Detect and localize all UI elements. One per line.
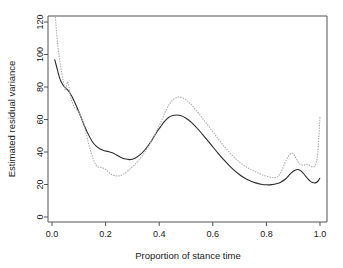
y-axis-title: Estimated residual variance bbox=[6, 61, 17, 178]
y-tick-label: 40 bbox=[35, 147, 45, 157]
axis-tick-labels: 0.00.20.40.60.81.0020406080100120 bbox=[35, 14, 326, 239]
y-tick-label: 80 bbox=[35, 82, 45, 92]
y-tick-label: 100 bbox=[35, 47, 45, 62]
chart-figure: 0.00.20.40.60.81.0020406080100120 Propor… bbox=[0, 0, 343, 268]
x-tick-label: 0.8 bbox=[260, 229, 273, 239]
x-tick-label: 0.0 bbox=[46, 229, 59, 239]
y-tick-label: 20 bbox=[35, 179, 45, 189]
x-tick-label: 0.4 bbox=[153, 229, 166, 239]
x-tick-label: 0.6 bbox=[207, 229, 220, 239]
residual-variance-plot: 0.00.20.40.60.81.0020406080100120 Propor… bbox=[0, 0, 343, 268]
y-tick-label: 60 bbox=[35, 114, 45, 124]
y-tick-label: 120 bbox=[35, 14, 45, 29]
series-line-solid-curve bbox=[55, 59, 320, 184]
x-tick-label: 0.2 bbox=[99, 229, 112, 239]
x-tick-label: 1.0 bbox=[314, 229, 327, 239]
x-axis-title: Proportion of stance time bbox=[135, 250, 241, 261]
axis-tick-marks bbox=[44, 22, 320, 226]
data-series-group bbox=[55, 9, 320, 185]
series-line-dotted-curve bbox=[55, 9, 320, 178]
y-tick-label: 0 bbox=[35, 214, 45, 219]
